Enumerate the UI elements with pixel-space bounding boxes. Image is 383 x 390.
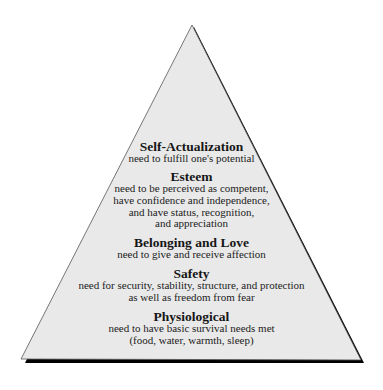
level-safety: Safety need for security, stability, str… bbox=[0, 267, 383, 304]
level-physiological: Physiological need to have basic surviva… bbox=[0, 310, 383, 347]
level-belonging-and-love: Belonging and Love need to give and rece… bbox=[0, 236, 383, 261]
level-description: have confidence and independence, bbox=[0, 195, 383, 207]
level-esteem: Esteem need to be perceived as competent… bbox=[0, 170, 383, 230]
level-self-actualization: Self-Actualization need to fulfill one's… bbox=[0, 140, 383, 165]
level-description: as well as freedom from fear bbox=[0, 292, 383, 304]
level-description: (food, water, warmth, sleep) bbox=[0, 335, 383, 347]
level-description: need to fulfill one's potential bbox=[0, 153, 383, 165]
level-description: and appreciation bbox=[0, 218, 383, 230]
level-description: need to give and receive affection bbox=[0, 249, 383, 261]
